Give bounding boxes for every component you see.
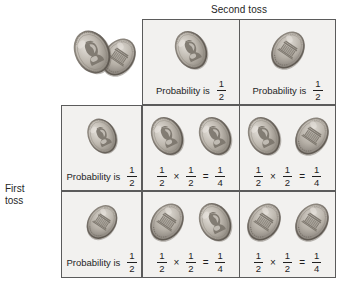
coin-tails-icon [265, 27, 311, 73]
probability-expression: 1 2 × 1 2 = 1 4 [157, 165, 225, 187]
fraction-numerator: 1 [157, 165, 166, 177]
fraction-numerator: 1 [254, 165, 263, 177]
equals-operator: = [298, 171, 306, 182]
outcome-cell-heads-tails: 1 2 × 1 2 = 1 4 [239, 105, 336, 191]
probability-caption: Probability is 1 2 [66, 251, 136, 273]
fraction-right: 1 2 [283, 251, 292, 273]
fraction-denominator: 2 [157, 263, 166, 274]
probability-expression: 1 2 × 1 2 = 1 4 [157, 251, 225, 273]
fraction-one-half: 1 2 [313, 79, 322, 101]
fraction-denominator: 2 [186, 263, 195, 274]
fraction-numerator: 1 [127, 251, 136, 263]
fraction-one-half: 1 2 [127, 251, 136, 273]
column-header-cell-tails: Probability is 1 2 [239, 19, 336, 105]
first-toss-header-line-2: toss [5, 195, 57, 207]
column-header-cell-heads: Probability is 1 2 [142, 19, 240, 105]
multiplication-operator: × [173, 257, 181, 268]
fraction-one-half: 1 2 [217, 79, 226, 101]
fraction-numerator: 1 [254, 251, 263, 263]
fraction-numerator: 1 [186, 165, 195, 177]
fraction-denominator: 2 [127, 263, 136, 274]
outcome-cell-tails-heads: 1 2 × 1 2 = 1 4 [142, 191, 240, 278]
coin-pair [144, 194, 238, 250]
equals-operator: = [298, 257, 306, 268]
fraction-left: 1 2 [254, 165, 263, 187]
fraction-numerator: 1 [312, 251, 321, 263]
fraction-denominator: 2 [313, 91, 322, 102]
probability-grid: Probability is 1 2 Probability is 1 2 [61, 19, 336, 278]
probability-caption: Probability is 1 2 [156, 79, 226, 101]
multiplication-operator: × [269, 257, 277, 268]
fraction-right: 1 2 [186, 251, 195, 273]
equals-operator: = [202, 257, 210, 268]
multiplication-operator: × [173, 171, 181, 182]
fraction-denominator: 4 [215, 177, 224, 188]
coin-pair [241, 108, 335, 164]
coin-heads-icon [81, 115, 123, 157]
probability-caption-text: Probability is [156, 85, 210, 96]
fraction-denominator: 4 [312, 177, 321, 188]
fraction-denominator: 4 [312, 263, 321, 274]
coin-heads-icon [241, 113, 287, 159]
outcome-cell-heads-heads: 1 2 × 1 2 = 1 4 [142, 105, 240, 191]
coin-group-heads [81, 108, 123, 164]
probability-caption: Probability is 1 2 [252, 79, 322, 101]
grid-corner-blank [61, 19, 142, 105]
fraction-right: 1 2 [283, 165, 292, 187]
fraction-left: 1 2 [157, 165, 166, 187]
coin-heads-icon [144, 113, 190, 159]
fraction-denominator: 2 [186, 177, 195, 188]
coin-group-heads [168, 22, 214, 78]
coin-group-tails [265, 22, 311, 78]
fraction-numerator: 1 [186, 251, 195, 263]
fraction-denominator: 4 [215, 263, 224, 274]
fraction-numerator: 1 [313, 79, 322, 91]
first-toss-header: First toss [5, 183, 57, 206]
fraction-denominator: 2 [283, 177, 292, 188]
outcome-cell-tails-tails: 1 2 × 1 2 = 1 4 [239, 191, 336, 278]
fraction-numerator: 1 [312, 165, 321, 177]
fraction-denominator: 2 [283, 263, 292, 274]
probability-caption-text: Probability is [252, 85, 306, 96]
probability-expression: 1 2 × 1 2 = 1 4 [254, 251, 322, 273]
probability-caption-text: Probability is [66, 171, 120, 182]
row-header-cell-tails: Probability is 1 2 [61, 191, 142, 278]
coin-tails-icon [289, 113, 335, 159]
coin-pair [241, 194, 335, 250]
coin-tails-icon [289, 199, 335, 245]
probability-caption: Probability is 1 2 [66, 165, 136, 187]
fraction-numerator: 1 [217, 79, 226, 91]
fraction-numerator: 1 [283, 251, 292, 263]
coin-tails-icon [144, 199, 190, 245]
fraction-numerator: 1 [127, 165, 136, 177]
row-header-cell-heads: Probability is 1 2 [61, 105, 142, 191]
coin-heads-icon [192, 199, 238, 245]
fraction-result: 1 4 [215, 165, 224, 187]
fraction-result: 1 4 [312, 251, 321, 273]
coin-group-tails [81, 194, 123, 250]
fraction-result: 1 4 [312, 165, 321, 187]
fraction-result: 1 4 [215, 251, 224, 273]
coin-tails-icon [241, 199, 287, 245]
fraction-left: 1 2 [254, 251, 263, 273]
fraction-denominator: 2 [254, 263, 263, 274]
coin-heads-icon [168, 27, 214, 73]
fraction-denominator: 2 [127, 177, 136, 188]
second-toss-header: Second toss [142, 4, 336, 15]
coin-pair [144, 108, 238, 164]
first-toss-header-line-1: First [5, 183, 57, 195]
fraction-denominator: 2 [254, 177, 263, 188]
equals-operator: = [202, 171, 210, 182]
fraction-numerator: 1 [283, 165, 292, 177]
multiplication-operator: × [269, 171, 277, 182]
fraction-numerator: 1 [157, 251, 166, 263]
fraction-denominator: 2 [157, 177, 166, 188]
coin-tails-icon [81, 201, 123, 243]
fraction-numerator: 1 [215, 251, 224, 263]
fraction-right: 1 2 [186, 165, 195, 187]
fraction-one-half: 1 2 [127, 165, 136, 187]
probability-caption-text: Probability is [66, 257, 120, 268]
fraction-denominator: 2 [217, 91, 226, 102]
probability-expression: 1 2 × 1 2 = 1 4 [254, 165, 322, 187]
fraction-numerator: 1 [215, 165, 224, 177]
